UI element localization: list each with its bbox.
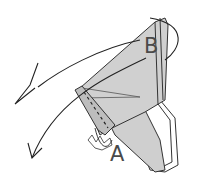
label-b: B — [144, 36, 158, 57]
label-a: A — [110, 144, 124, 165]
upper-arrow-head — [15, 63, 38, 104]
origami-diagram — [0, 0, 199, 183]
